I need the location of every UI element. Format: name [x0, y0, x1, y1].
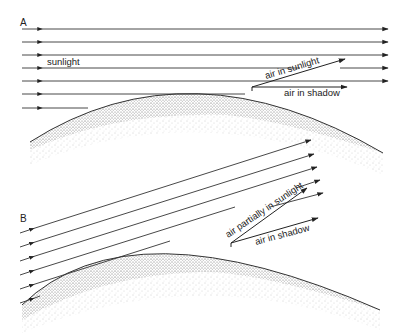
air-in-shadow-label-a: air in shadow — [284, 87, 340, 98]
diagram-canvas: A sunlight air in sunlight air in shadow — [0, 0, 402, 333]
panel-a-label: A — [20, 17, 27, 28]
earth-surface-a — [30, 94, 383, 175]
sunlight-label: sunlight — [47, 56, 80, 67]
earth-surface-b — [22, 254, 380, 333]
panel-a: A sunlight air in sunlight air in shadow — [20, 17, 388, 175]
panel-b: B air partially in sunlight air in shado… — [20, 140, 380, 333]
panel-b-label: B — [20, 213, 27, 224]
air-in-shadow-label-b: air in shadow — [254, 222, 311, 247]
air-in-sunlight-label-a: air in sunlight — [263, 54, 320, 81]
